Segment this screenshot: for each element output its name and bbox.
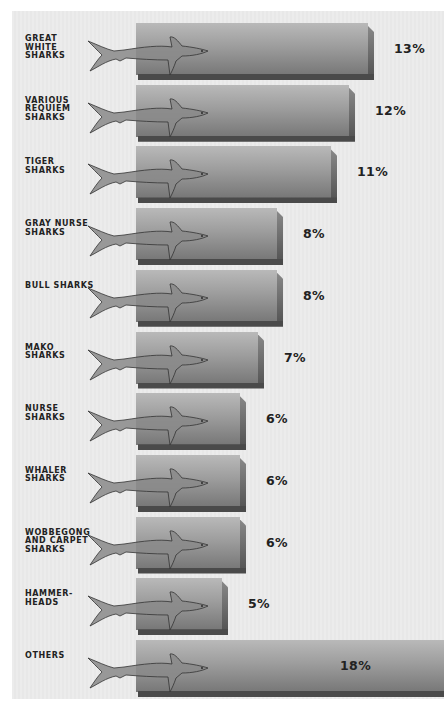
value-label: 13% <box>394 41 425 56</box>
value-label: 12% <box>375 103 406 118</box>
value-label: 6% <box>266 411 288 426</box>
nurse-shark-icon <box>84 393 214 449</box>
category-label: BULL SHARKS <box>25 282 95 291</box>
value-label: 18% <box>340 658 371 673</box>
value-label: 8% <box>303 226 325 241</box>
bar-row: TIGER SHARKS11% <box>0 146 444 204</box>
value-label: 11% <box>357 164 388 179</box>
whaler-shark-icon <box>84 455 214 511</box>
value-label: 8% <box>303 288 325 303</box>
category-label: WHALER SHARKS <box>25 467 95 484</box>
value-label: 6% <box>266 473 288 488</box>
hammerhead-shark-icon <box>84 578 214 634</box>
bull-shark-icon <box>84 270 214 326</box>
other-shark-icon <box>84 640 214 696</box>
gray-nurse-shark-icon <box>84 208 214 264</box>
category-label: GRAY NURSE SHARKS <box>25 220 95 237</box>
value-label: 6% <box>266 535 288 550</box>
bar-row: MAKO SHARKS7% <box>0 332 444 390</box>
category-label: GREAT WHITE SHARKS <box>25 35 95 61</box>
value-label: 5% <box>248 596 270 611</box>
mako-shark-icon <box>84 332 214 388</box>
value-label: 7% <box>284 350 306 365</box>
category-label: VARIOUS REQUIEM SHARKS <box>25 97 95 123</box>
bar-row: GREAT WHITE SHARKS13% <box>0 23 444 81</box>
bar-row: HAMMER- HEADS5% <box>0 578 444 636</box>
bar-row: OTHERS18% <box>0 640 444 698</box>
bar-row: VARIOUS REQUIEM SHARKS12% <box>0 85 444 143</box>
category-label: WOBBEGONG AND CARPET SHARKS <box>25 529 95 555</box>
great-white-shark-icon <box>84 23 214 79</box>
bar-row: WOBBEGONG AND CARPET SHARKS6% <box>0 517 444 575</box>
tiger-shark-icon <box>84 146 214 202</box>
bar-row: WHALER SHARKS6% <box>0 455 444 513</box>
wobbegong-shark-icon <box>84 517 214 573</box>
category-label: TIGER SHARKS <box>25 158 95 175</box>
category-label: NURSE SHARKS <box>25 405 95 422</box>
category-label: MAKO SHARKS <box>25 344 95 361</box>
bar-row: NURSE SHARKS6% <box>0 393 444 451</box>
bar-row: BULL SHARKS8% <box>0 270 444 328</box>
category-label: HAMMER- HEADS <box>25 590 95 607</box>
category-label: OTHERS <box>25 652 95 661</box>
requiem-shark-icon <box>84 85 214 141</box>
bar-row: GRAY NURSE SHARKS8% <box>0 208 444 266</box>
